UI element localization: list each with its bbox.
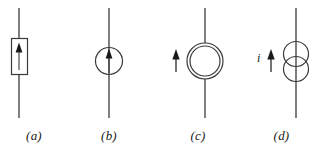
caption-d: (d) — [246, 128, 317, 144]
caption-c: (c) — [150, 128, 246, 144]
up-arrow-d — [267, 49, 274, 72]
symbol-b-drawing — [68, 0, 150, 125]
symbol-group-d: i (d) — [246, 0, 317, 155]
symbol-a-drawing — [0, 0, 68, 125]
circuit-symbols-figure: (a) (b) — [0, 0, 317, 155]
up-arrow-c — [172, 49, 179, 72]
current-label-i: i — [257, 51, 260, 66]
symbol-group-a: (a) — [0, 0, 68, 155]
inner-circle-c — [190, 46, 220, 76]
caption-b: (b) — [68, 128, 150, 144]
symbol-group-b: (b) — [68, 0, 150, 155]
up-arrow-b — [106, 49, 113, 74]
caption-a: (a) — [0, 128, 68, 144]
symbol-c-drawing — [150, 0, 246, 125]
symbol-group-c: (c) — [150, 0, 246, 155]
